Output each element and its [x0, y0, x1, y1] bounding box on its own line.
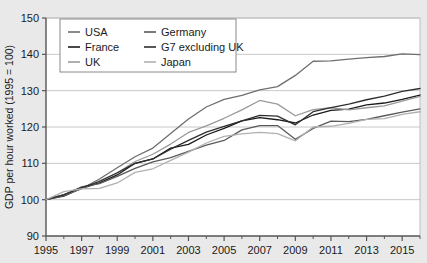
chart-legend: USAGermanyFranceG7 excluding UKUKJapan [60, 19, 244, 72]
x-tick-label: 2007 [247, 244, 271, 256]
y-tick-label: 110 [21, 157, 39, 169]
legend-label-germany: Germany [161, 26, 207, 38]
y-tick-label: 120 [21, 121, 39, 133]
x-tick-label: 2005 [212, 244, 236, 256]
legend-label-usa: USA [85, 26, 108, 38]
y-axis-title: GDP per hour worked (1995 = 100) [3, 45, 15, 209]
x-tick-label: 1997 [69, 244, 93, 256]
x-axis-tick-labels: 1995199719992001200320052007200920112013… [34, 244, 415, 256]
x-tick-label: 2001 [141, 244, 165, 256]
legend-label-france: France [85, 41, 119, 53]
y-tick-label: 100 [21, 194, 39, 206]
y-tick-label: 150 [21, 12, 39, 24]
legend-label-japan: Japan [161, 56, 191, 68]
y-tick-label: 90 [27, 230, 39, 242]
legend-label-g7-excluding-uk: G7 excluding UK [161, 41, 244, 53]
x-tick-label: 2011 [319, 244, 343, 256]
x-tick-label: 2003 [176, 244, 200, 256]
line-chart: 90100110120130140150 1995199719992001200… [0, 0, 427, 263]
y-tick-label: 130 [21, 85, 39, 97]
chart-root: 90100110120130140150 1995199719992001200… [0, 0, 427, 263]
x-tick-label: 2015 [390, 244, 414, 256]
x-tick-label: 2009 [283, 244, 307, 256]
y-tick-label: 140 [21, 48, 39, 60]
x-tick-label: 1999 [105, 244, 129, 256]
legend-label-uk: UK [85, 56, 101, 68]
x-tick-label: 1995 [34, 244, 58, 256]
x-tick-label: 2013 [354, 244, 378, 256]
